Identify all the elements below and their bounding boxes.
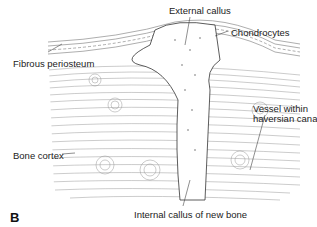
label-internal-callus: Internal callus of new bone	[134, 210, 247, 220]
label-bone-cortex: Bone cortex	[13, 151, 64, 161]
label-vessel-line2: haversian canal	[253, 114, 317, 124]
panel-letter: B	[10, 210, 19, 225]
label-chondrocytes: Chondrocytes	[231, 28, 290, 38]
label-external-callus: External callus	[169, 6, 231, 16]
label-fibrous-periosteum: Fibrous periosteum	[13, 59, 94, 69]
